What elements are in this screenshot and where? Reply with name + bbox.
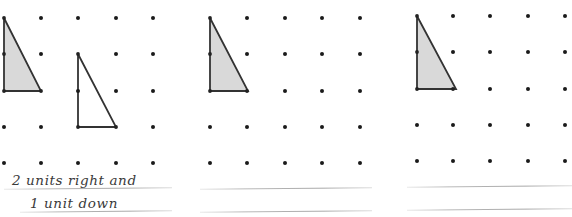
panel-1-grid-dot — [151, 16, 155, 20]
panel-1-grid-dot — [76, 52, 80, 56]
panel-1-grid-dot — [151, 125, 155, 129]
panel-3-grid-dot — [526, 159, 530, 163]
panel-1-grid-dot — [76, 161, 80, 165]
panel-2-grid-dot — [358, 125, 362, 129]
panel-2-grid-dot — [245, 161, 249, 165]
panel-1-grid-dot — [39, 89, 43, 93]
panel-2-grid-dot — [245, 52, 249, 56]
panel-2-grid-dot — [358, 161, 362, 165]
panel-1-grid-dot — [2, 16, 6, 20]
panel-2-grid-dot — [208, 125, 212, 129]
panel-3-grid-dot — [488, 159, 492, 163]
panel-1-grid-dot — [151, 89, 155, 93]
panel-1-grid-dot — [2, 161, 6, 165]
panel-2-grid-dot — [320, 16, 324, 20]
panel-2-grid-dot — [358, 89, 362, 93]
panel-1-grid-dot — [151, 161, 155, 165]
panel-1-grid-dot — [39, 52, 43, 56]
panel-2-grid-dot — [283, 16, 287, 20]
panel-1-original-triangle — [4, 18, 41, 91]
panel-1-grid-dot — [39, 125, 43, 129]
panel-3-grid-dot — [415, 87, 419, 91]
panel-1: 2 units right and1 unit down — [0, 0, 190, 217]
panel-1-grid-dot — [39, 16, 43, 20]
panel-3-grid-dot — [488, 50, 492, 54]
panel-2-grid-dot — [283, 125, 287, 129]
panel-2-grid-dot — [320, 161, 324, 165]
panel-1-grid-dot — [151, 52, 155, 56]
panel-2-grid-dot — [208, 52, 212, 56]
panel-3-grid-dot — [563, 14, 567, 18]
panel-2-grid-dot — [208, 89, 212, 93]
panel-2-grid-dot — [283, 89, 287, 93]
panel-2-original-triangle — [210, 18, 248, 91]
panel-1-grid-dot — [2, 125, 6, 129]
panel-3-grid-dot — [415, 50, 419, 54]
panel-3-original-triangle — [417, 16, 456, 89]
panel-2-grid-dot — [245, 89, 249, 93]
panel-3-grid-dot — [526, 123, 530, 127]
panel-3-grid-dot — [563, 87, 567, 91]
panel-3-figure — [380, 0, 572, 217]
panel-1-answer-text-line-1: 2 units right and — [12, 172, 137, 188]
panel-2-grid-dot — [245, 16, 249, 20]
panel-3-grid-dot — [488, 14, 492, 18]
panel-3-grid-dot — [563, 123, 567, 127]
panel-3-grid-dot — [488, 123, 492, 127]
panel-1-grid-dot — [76, 89, 80, 93]
panel-2 — [190, 0, 380, 217]
panel-2-grid-dot — [320, 52, 324, 56]
panel-1-shapes — [4, 18, 116, 127]
panel-2-grid-dot — [208, 161, 212, 165]
panel-2-grid-dot — [320, 89, 324, 93]
panel-1-translated-triangle — [78, 54, 116, 127]
panel-2-grid-dot — [245, 125, 249, 129]
panel-1-grid-dot — [76, 16, 80, 20]
panel-2-grid-dot — [208, 16, 212, 20]
panel-3-grid-dot — [526, 50, 530, 54]
panel-3-grid-dot — [415, 123, 419, 127]
panel-3-grid-dot — [451, 14, 455, 18]
panel-3-grid-dot — [526, 87, 530, 91]
panel-1-grid-dot — [2, 52, 6, 56]
panel-2-grid-dot — [358, 52, 362, 56]
panel-3 — [380, 0, 572, 217]
panel-1-answer-text-line-2: 1 unit down — [30, 195, 118, 211]
panel-3-grid-dot — [563, 50, 567, 54]
panel-2-figure — [190, 0, 380, 217]
panel-2-grid-dot — [320, 125, 324, 129]
panel-1-grid-dot — [114, 89, 118, 93]
panel-1-grid-dot — [76, 125, 80, 129]
panel-2-grid-dot — [283, 161, 287, 165]
panel-2-grid-dot — [283, 52, 287, 56]
worksheet-canvas: 2 units right and1 unit down — [0, 0, 572, 217]
panel-3-grid-dot — [451, 159, 455, 163]
panel-3-grid-dot — [451, 123, 455, 127]
panel-3-grid-dot — [451, 87, 455, 91]
panel-3-grid-dot — [415, 14, 419, 18]
panel-1-grid-dot — [114, 16, 118, 20]
panel-3-grid-dot — [563, 159, 567, 163]
panel-2-shapes — [210, 18, 248, 91]
panel-1-grid-dot — [114, 125, 118, 129]
panel-1-grid-dot — [114, 161, 118, 165]
panel-3-shapes — [417, 16, 456, 89]
panel-3-grid-dot — [488, 87, 492, 91]
panel-1-grid-dot — [2, 89, 6, 93]
panel-3-grid-dot — [451, 50, 455, 54]
panel-3-grid-dot — [415, 159, 419, 163]
panel-2-grid-dot — [358, 16, 362, 20]
panel-3-grid-dot — [526, 14, 530, 18]
panel-1-grid-dot — [39, 161, 43, 165]
panel-1-grid-dot — [114, 52, 118, 56]
